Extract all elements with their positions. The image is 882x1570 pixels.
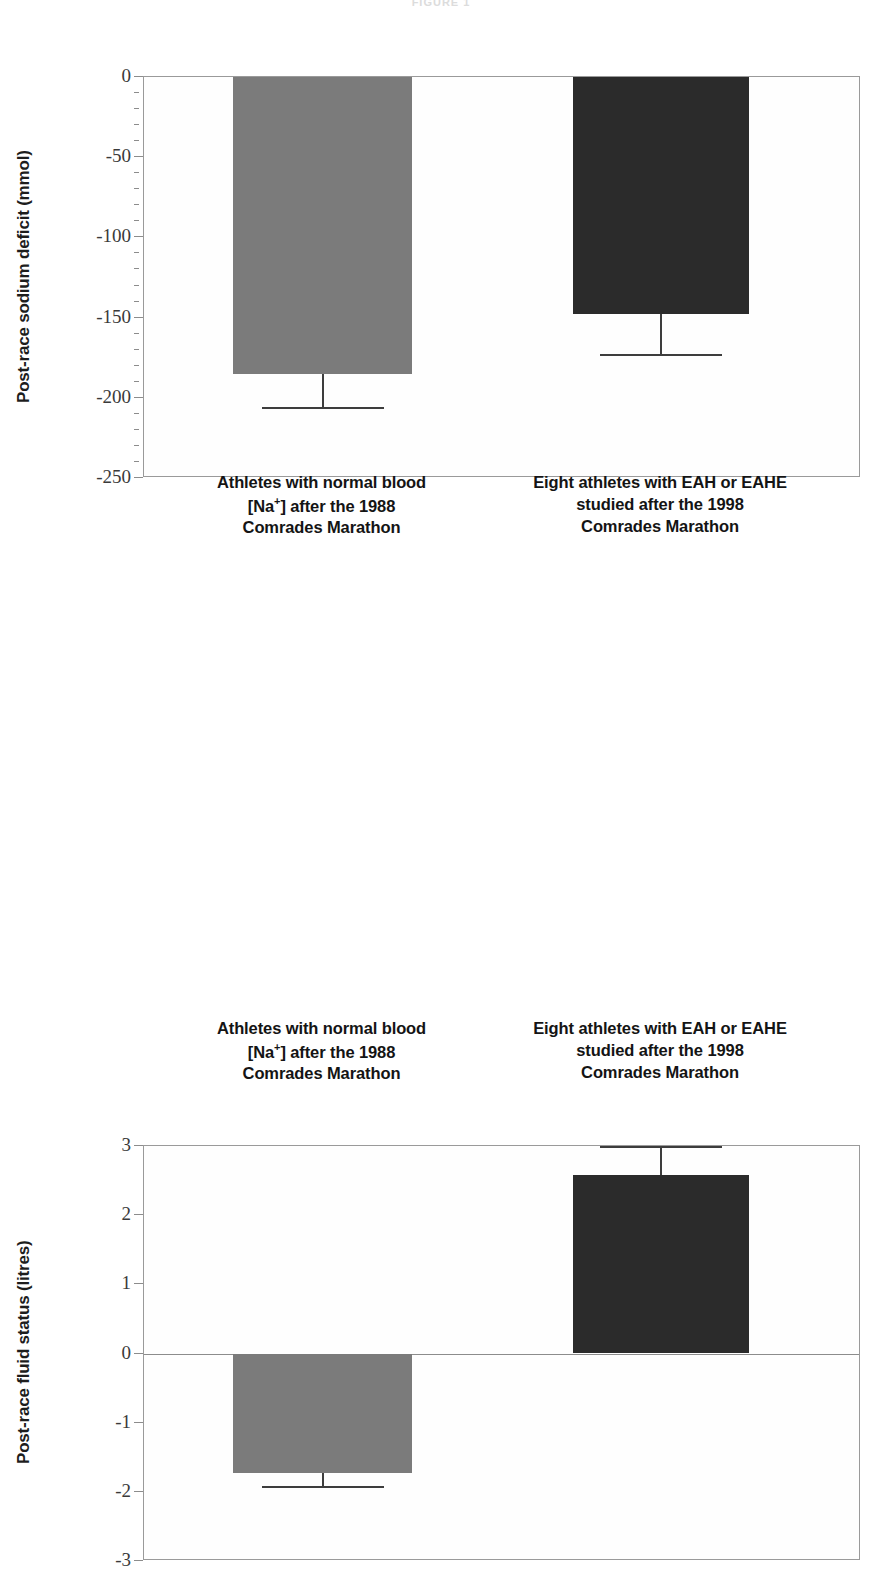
x-label-line-2: studied after the 1998	[500, 494, 820, 516]
y-tick-minor	[134, 301, 139, 302]
y-tick-minor	[134, 92, 139, 93]
x-label-line-2: [Na+] after the 1988	[162, 494, 482, 517]
y-tick-major	[134, 1422, 143, 1423]
x-label-line-1: Eight athletes with EAH or EAHE	[500, 1018, 820, 1040]
plot-area-sodium	[143, 76, 860, 477]
y-tick-major	[134, 1491, 143, 1492]
error-bar-cap	[600, 1146, 722, 1148]
error-bar-cap	[600, 354, 722, 356]
chart-sodium-deficit: Post-race sodium deficit (mmol) 0-50-100…	[0, 30, 882, 280]
y-tick-minor	[134, 204, 139, 205]
y-tick-minor	[134, 429, 139, 430]
error-bar-stem	[660, 1146, 662, 1175]
y-tick-major	[134, 1283, 143, 1284]
y-tick-minor	[134, 172, 139, 173]
y-tick-minor	[134, 381, 139, 382]
x-label-line-3: Comrades Marathon	[500, 1062, 820, 1084]
y-tick-major	[134, 317, 143, 318]
plot-area-fluid	[143, 1145, 860, 1560]
y-tick-label: -3	[115, 1549, 131, 1570]
bar-normal-1988	[233, 1354, 412, 1474]
y-tick-minor	[134, 365, 139, 366]
y-tick-minor	[134, 188, 139, 189]
y-tick-minor	[134, 333, 139, 334]
figure-title: FIGURE 1	[0, 0, 882, 8]
y-tick-label: 0	[122, 1342, 132, 1364]
y-tick-minor	[134, 413, 139, 414]
y-axis-fluid: 3210-1-2-3	[134, 1145, 143, 1560]
x-label-line-2: studied after the 1998	[500, 1040, 820, 1062]
y-tick-minor	[134, 445, 139, 446]
y-tick-major	[134, 1145, 143, 1146]
y-tick-minor	[134, 285, 139, 286]
x-label-line-3: Comrades Marathon	[162, 1063, 482, 1085]
x-label-line-2: [Na+] after the 1988	[162, 1040, 482, 1063]
y-tick-major	[134, 477, 143, 478]
x-label-line-3: Comrades Marathon	[162, 517, 482, 539]
y-tick-major	[134, 1353, 143, 1354]
x-label-line-1: Eight athletes with EAH or EAHE	[500, 472, 820, 494]
x-axis-label-eah-1998: Eight athletes with EAH or EAHEstudied a…	[500, 472, 820, 537]
y-tick-major	[134, 156, 143, 157]
y-tick-label: -100	[96, 225, 131, 247]
x-label-line-1: Athletes with normal blood	[162, 472, 482, 494]
error-bar-cap	[262, 407, 384, 409]
y-tick-label: 1	[122, 1272, 132, 1294]
y-axis-sodium: 0-50-100-150-200-250	[134, 76, 143, 477]
error-bar-stem	[660, 314, 662, 354]
y-tick-minor	[134, 140, 139, 141]
y-tick-minor	[134, 108, 139, 109]
y-tick-label: -2	[115, 1480, 131, 1502]
chart-fluid-status: Post-race fluid status (litres) 3210-1-2…	[0, 565, 882, 815]
y-tick-label: -200	[96, 386, 131, 408]
y-tick-label: -150	[96, 306, 131, 328]
error-bar-cap	[262, 1486, 384, 1488]
error-bar-stem	[322, 374, 324, 408]
y-tick-minor	[134, 268, 139, 269]
y-tick-label: -250	[96, 466, 131, 488]
y-tick-major	[134, 1560, 143, 1561]
bar-eah-1998	[573, 77, 749, 314]
y-tick-minor	[134, 220, 139, 221]
y-tick-label: -50	[106, 145, 131, 167]
x-axis-label-normal-1988: Athletes with normal blood[Na+] after th…	[162, 1018, 482, 1085]
y-tick-label: 2	[122, 1203, 132, 1225]
y-tick-minor	[134, 252, 139, 253]
y-tick-major	[134, 236, 143, 237]
x-axis-label-eah-1998: Eight athletes with EAH or EAHEstudied a…	[500, 1018, 820, 1083]
bar-normal-1988	[233, 77, 412, 374]
y-tick-label: -1	[115, 1411, 131, 1433]
y-axis-title-sodium: Post-race sodium deficit (mmol)	[14, 70, 34, 483]
y-tick-minor	[134, 124, 139, 125]
y-tick-minor	[134, 461, 139, 462]
bar-eah-1998	[573, 1175, 749, 1353]
y-tick-label: 0	[122, 65, 132, 87]
x-label-line-3: Comrades Marathon	[500, 516, 820, 538]
error-bar-stem	[322, 1473, 324, 1486]
y-tick-major	[134, 397, 143, 398]
y-tick-major	[134, 1214, 143, 1215]
x-axis-label-normal-1988: Athletes with normal blood[Na+] after th…	[162, 472, 482, 539]
y-axis-title-fluid: Post-race fluid status (litres)	[14, 1139, 34, 1566]
x-label-line-1: Athletes with normal blood	[162, 1018, 482, 1040]
y-tick-major	[134, 76, 143, 77]
y-tick-label: 3	[122, 1134, 132, 1156]
y-tick-minor	[134, 349, 139, 350]
